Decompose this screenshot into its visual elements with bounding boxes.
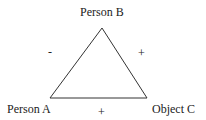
edge-sign-b-c: + — [138, 46, 145, 60]
triangle-shape — [50, 28, 147, 98]
node-person-a: Person A — [7, 102, 51, 116]
edge-sign-a-c: + — [98, 105, 105, 119]
edge-sign-a-b: - — [48, 45, 52, 59]
node-object-c: Object C — [152, 102, 195, 116]
node-person-b: Person B — [80, 5, 124, 19]
